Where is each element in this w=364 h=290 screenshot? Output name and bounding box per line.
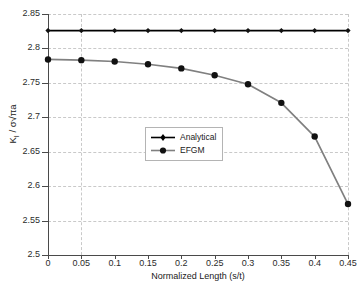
y-tick-label: 2.65 <box>22 147 40 156</box>
y-tick-mark <box>42 221 48 222</box>
y-tick-mark <box>42 83 48 84</box>
y-tick-label: 2.5 <box>27 250 40 259</box>
gridline-vertical <box>348 14 349 255</box>
y-tick-label: 2.85 <box>22 9 40 18</box>
x-tick-label: 0.45 <box>328 259 364 268</box>
gridline-horizontal <box>48 83 348 84</box>
legend-label-analytical: Analytical <box>180 133 216 142</box>
y-tick-label: 2.55 <box>22 216 40 225</box>
chart-legend: Analytical EFGM <box>145 127 223 161</box>
y-tick-mark <box>42 152 48 153</box>
legend-item-analytical: Analytical <box>150 131 216 144</box>
gridline-horizontal <box>48 221 348 222</box>
gridline-horizontal <box>48 186 348 187</box>
y-tick-label: 2.7 <box>27 112 40 121</box>
y-tick-mark <box>42 186 48 187</box>
gridline-horizontal <box>48 48 348 49</box>
gridline-horizontal <box>48 14 348 15</box>
x-axis-label: Normalized Length (s/t) <box>48 272 348 281</box>
y-tick-label: 2.6 <box>27 181 40 190</box>
y-axis-label: KI / σ√πa <box>8 69 20 179</box>
y-tick-mark <box>42 117 48 118</box>
y-tick-mark <box>42 14 48 15</box>
chart-figure: 2.52.552.62.652.72.752.82.85 00.050.10.1… <box>0 0 364 290</box>
legend-swatch-efgm <box>150 145 176 156</box>
gridline-vertical <box>81 14 82 255</box>
y-tick-label: 2.8 <box>27 43 40 52</box>
y-axis-line <box>48 14 49 256</box>
y-tick-mark <box>42 48 48 49</box>
y-tick-label: 2.75 <box>22 78 40 87</box>
legend-label-efgm: EFGM <box>180 146 205 155</box>
x-axis-line <box>48 255 349 256</box>
legend-swatch-analytical <box>150 132 176 143</box>
legend-item-efgm: EFGM <box>150 144 216 157</box>
gridline-horizontal <box>48 117 348 118</box>
